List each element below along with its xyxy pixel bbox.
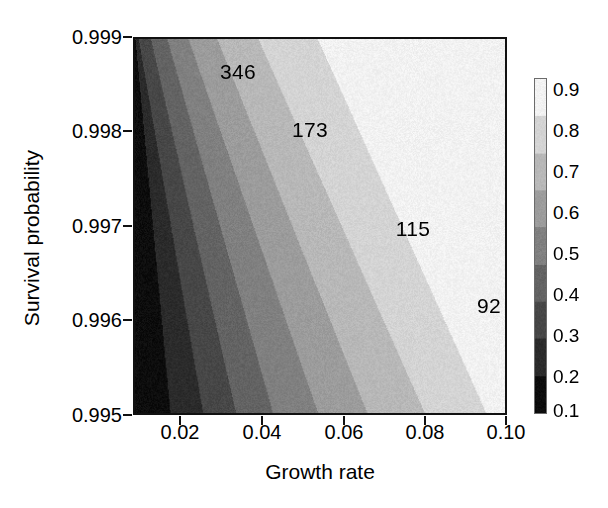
- y-tick-label: 0.996: [72, 309, 122, 332]
- y-tick-label: 0.998: [72, 120, 122, 143]
- figure-canvas: 0.999 0.998 0.997 0.996 0.995 Survival p…: [0, 0, 608, 508]
- y-tick-label: 0.997: [72, 215, 122, 238]
- colorbar-tick-label: 0.5: [553, 243, 579, 265]
- x-tick-label: 0.04: [243, 421, 282, 444]
- colorbar-tick-label: 0.1: [553, 400, 579, 422]
- contour-label-346: 346: [220, 60, 256, 84]
- y-tick-mark: [123, 225, 132, 227]
- contour-label-92: 92: [477, 294, 501, 318]
- y-tick-label: 0.995: [72, 404, 122, 427]
- y-tick-label: 0.999: [72, 26, 122, 49]
- colorbar: [534, 78, 547, 414]
- y-tick-mark: [123, 130, 132, 132]
- colorbar-gradient: [535, 79, 546, 413]
- contour-label-115: 115: [396, 217, 430, 241]
- colorbar-tick-label: 0.3: [553, 325, 579, 347]
- x-tick-label: 0.08: [406, 421, 445, 444]
- plot-area: [133, 37, 507, 415]
- colorbar-tick-label: 0.6: [553, 202, 579, 224]
- colorbar-tick-label: 0.9: [553, 79, 579, 101]
- y-tick-mark: [123, 36, 132, 38]
- x-tick-label: 0.06: [325, 421, 364, 444]
- y-axis-tick-labels: 0.999 0.998 0.997 0.996 0.995: [0, 0, 122, 508]
- x-tick-label: 0.02: [161, 421, 200, 444]
- y-tick-mark: [123, 319, 132, 321]
- colorbar-tick-label: 0.2: [553, 366, 579, 388]
- y-tick-mark: [123, 414, 132, 416]
- colorbar-tick-label: 0.7: [553, 161, 579, 183]
- colorbar-tick-label: 0.4: [553, 284, 579, 306]
- contour-label-173: 173: [292, 118, 328, 142]
- y-axis-label: Survival probability: [20, 118, 44, 358]
- filled-contour-plot: [135, 39, 505, 413]
- colorbar-tick-label: 0.8: [553, 120, 579, 142]
- x-axis-label: Growth rate: [133, 460, 507, 484]
- x-tick-label: 0.10: [487, 421, 526, 444]
